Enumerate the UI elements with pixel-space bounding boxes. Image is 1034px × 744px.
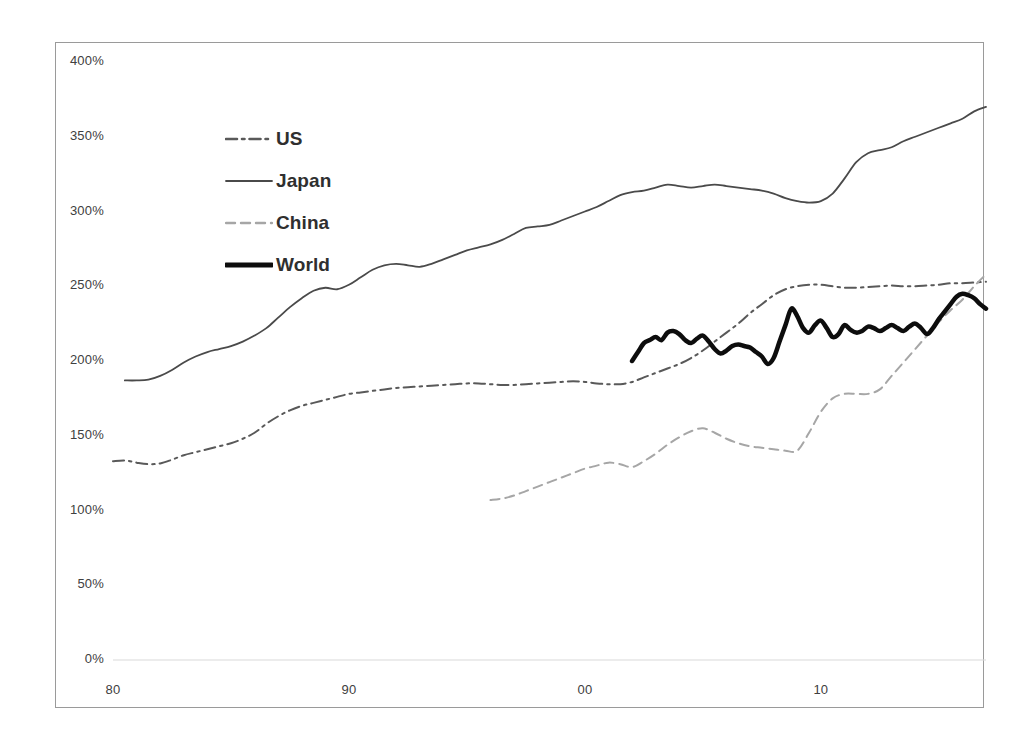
chart-plot-area: [0, 0, 1034, 744]
y-axis-tick-label: 100%: [40, 502, 104, 517]
legend-swatch-japan-icon: [225, 174, 273, 188]
legend-item-japan: Japan: [225, 160, 445, 202]
legend-item-us: US: [225, 118, 445, 160]
x-axis-tick-label: 00: [563, 682, 607, 697]
legend-label: US: [276, 128, 303, 150]
y-axis-tick-label: 50%: [40, 576, 104, 591]
legend-label: World: [276, 254, 330, 276]
legend-swatch-us-icon: [225, 132, 273, 146]
x-axis-tick-label: 10: [799, 682, 843, 697]
legend-label: China: [276, 212, 329, 234]
series-line-world: [632, 294, 986, 364]
y-axis-tick-label: 350%: [40, 128, 104, 143]
legend-label: Japan: [276, 170, 331, 192]
y-axis-tick-label: 200%: [40, 352, 104, 367]
y-axis-tick-label: 400%: [40, 53, 104, 68]
x-axis-tick-label: 80: [91, 682, 135, 697]
y-axis-tick-label: 0%: [40, 651, 104, 666]
chart-figure: 400%350%300%250%200%150%100%50%0% 809000…: [0, 0, 1034, 744]
legend-item-china: China: [225, 202, 445, 244]
series-line-china: [491, 274, 986, 500]
x-axis-tick-label: 90: [327, 682, 371, 697]
chart-legend: USJapanChinaWorld: [225, 118, 445, 286]
legend-swatch-world-icon: [225, 258, 273, 272]
legend-swatch-china-icon: [225, 216, 273, 230]
legend-item-world: World: [225, 244, 445, 286]
y-axis-tick-label: 150%: [40, 427, 104, 442]
y-axis-tick-label: 250%: [40, 277, 104, 292]
series-line-us: [113, 282, 986, 464]
y-axis-tick-label: 300%: [40, 203, 104, 218]
